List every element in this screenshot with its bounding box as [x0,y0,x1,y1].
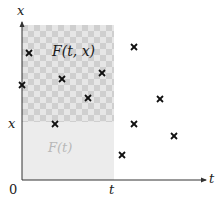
x-marker-icon [157,96,163,102]
x-marker-icon [131,121,137,127]
x-marker-icon [119,152,125,158]
x-marker-icon [171,133,177,139]
region-label-f-t-x: F(t, x) [52,44,95,58]
y-axis-label: x [17,4,24,17]
x-tick-label: x [8,117,15,130]
x-marker-icon [131,44,137,50]
region-label-f-t: F(t) [48,141,72,154]
origin-label: 0 [9,183,17,196]
region-f-t-x [22,25,114,122]
x-axis-label: t [209,172,214,185]
diagram-canvas [0,0,224,204]
t-tick-label: t [109,183,114,196]
